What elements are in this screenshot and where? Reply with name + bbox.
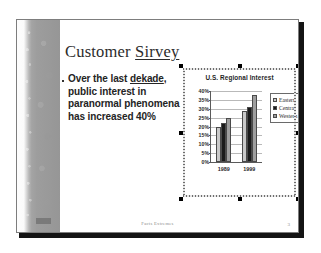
bullet-text: Over the last dekade, public interest in… [68, 73, 180, 123]
bullet-item: Over the last dekade, public interest in… [62, 73, 180, 123]
bullet-dot-icon [62, 80, 64, 82]
chart-bar-group[interactable] [237, 91, 263, 162]
chart-y-tick-label: 25% [199, 115, 209, 121]
resize-handle-bottom-left[interactable] [179, 197, 183, 201]
chart-y-tick-label: 30% [199, 106, 209, 112]
chart-y-tick-label: 10% [199, 141, 209, 147]
resize-handle-top-right[interactable] [296, 64, 299, 68]
footer-text: Facts Extremes [141, 221, 173, 226]
chart-y-tick-label: 20% [199, 124, 209, 130]
band-corner-mark [36, 218, 51, 224]
chart-legend-item[interactable]: Central [273, 104, 297, 112]
chart-y-tick-label: 35% [199, 97, 209, 103]
chart-legend-swatch [273, 98, 277, 102]
body-text-placeholder[interactable]: Over the last dekade, public interest in… [62, 73, 180, 123]
resize-handle-top-center[interactable] [238, 64, 242, 68]
resize-handle-bottom-center[interactable] [238, 197, 242, 201]
resize-handle-middle-left[interactable] [179, 131, 183, 135]
slide-title-misspelled-word: Sirvey [135, 42, 179, 61]
chart-y-tick-label: 40% [199, 88, 209, 94]
chart-bar[interactable] [252, 95, 257, 162]
band-texture [17, 20, 60, 232]
chart-canvas[interactable]: U.S. Regional Interest 40%35%30%25%20%15… [184, 69, 295, 196]
chart-legend-swatch [273, 106, 277, 110]
chart-y-tick-label: 15% [199, 132, 209, 138]
resize-handle-top-left[interactable] [179, 64, 183, 68]
chart-title: U.S. Regional Interest [184, 74, 295, 81]
chart-legend-item[interactable]: Eastern [273, 96, 297, 104]
chart-x-tick-label: 1989 [218, 166, 230, 172]
resize-handle-bottom-right[interactable] [296, 197, 299, 201]
slide-title[interactable]: Customer Sirvey [65, 42, 179, 62]
slide-frame: Customer Sirvey Over the last dekade, pu… [16, 19, 301, 235]
slide-canvas[interactable]: Customer Sirvey Over the last dekade, pu… [16, 19, 299, 233]
bullet-text-before: Over the last [68, 73, 130, 84]
bullet-misspelled-word: dekade [130, 73, 164, 84]
resize-handle-middle-right[interactable] [296, 131, 299, 135]
slide-number: 3 [288, 222, 291, 227]
chart-legend-label: Western [279, 113, 297, 119]
chart-bar[interactable] [226, 118, 231, 162]
chart-y-tick-label: 5% [202, 150, 210, 156]
chart-legend-label: Eastern [279, 97, 296, 103]
chart-plot-area: 40%35%30%25%20%15%10%5%0%19891999 [210, 91, 262, 163]
chart-object[interactable]: U.S. Regional Interest 40%35%30%25%20%15… [181, 66, 298, 199]
slide-title-text: Customer [65, 42, 135, 61]
footer-divider [60, 213, 298, 214]
chart-legend-swatch [273, 114, 277, 118]
chart-legend-label: Central [279, 105, 295, 111]
chart-legend[interactable]: EasternCentralWestern [270, 93, 299, 123]
chart-y-tick-label: 0% [202, 159, 210, 165]
chart-bar-group[interactable] [211, 91, 237, 162]
chart-x-tick-label: 1999 [243, 166, 255, 172]
left-decorative-band [17, 20, 60, 232]
chart-legend-item[interactable]: Western [273, 112, 297, 120]
